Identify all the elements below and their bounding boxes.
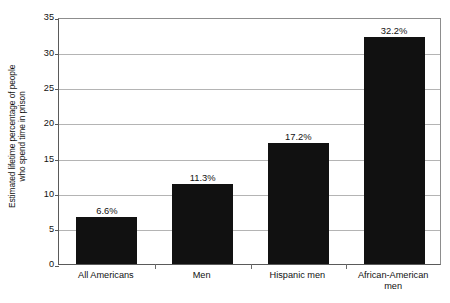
bar <box>268 143 329 264</box>
y-axis-tick-label: 30 <box>34 49 54 58</box>
bar-chart: Estimated lifetime percentage of people … <box>0 0 450 303</box>
y-axis-tick-mark <box>55 160 59 161</box>
bar <box>364 37 425 264</box>
y-axis-tick-mark <box>55 19 59 20</box>
x-axis-tick-label-line: All Americans <box>58 270 154 281</box>
x-axis-tick-mark <box>155 264 156 269</box>
y-axis-tick-label: 5 <box>34 225 54 234</box>
y-axis-tick-label: 35 <box>34 13 54 22</box>
x-axis-tick-mark <box>346 264 347 269</box>
y-axis-tick-mark <box>55 266 59 267</box>
x-axis-tick-label: All Americans <box>58 270 154 281</box>
x-axis-tick-label-line: African-American <box>345 270 441 281</box>
y-axis-tick-labels: 05101520253035 <box>33 0 54 303</box>
x-axis-tick-labels: All AmericansMenHispanic menAfrican-Amer… <box>58 270 441 303</box>
y-axis-tick-mark <box>55 89 59 90</box>
y-axis-tick-label: 15 <box>34 155 54 164</box>
x-axis-tick-label-line: Hispanic men <box>250 270 346 281</box>
y-axis-title: Estimated lifetime percentage of people … <box>0 0 36 272</box>
y-axis-tick-mark <box>55 124 59 125</box>
y-axis-tick-label: 10 <box>34 190 54 199</box>
y-axis-title-line-2: who spend time in prison <box>18 64 28 207</box>
x-axis-tick-label-line: Men <box>154 270 250 281</box>
x-axis-tick-mark <box>251 264 252 269</box>
y-axis-tick-mark <box>55 195 59 196</box>
y-axis-tick-label: 0 <box>34 260 54 269</box>
x-axis-tick-label: Men <box>154 270 250 281</box>
y-axis-tick-label: 25 <box>34 84 54 93</box>
bar-value-label: 32.2% <box>354 26 434 35</box>
y-axis-tick-mark <box>55 54 59 55</box>
y-axis-title-line-1: Estimated lifetime percentage of people <box>8 64 18 207</box>
x-axis-tick-label: Hispanic men <box>250 270 346 281</box>
bar-value-label: 11.3% <box>163 173 243 182</box>
bar-value-label: 6.6% <box>67 206 147 215</box>
bar-value-label: 17.2% <box>258 132 338 141</box>
bar <box>172 184 233 264</box>
x-axis-tick-label: African-Americanmen <box>345 270 441 292</box>
y-axis-tick-mark <box>55 230 59 231</box>
bar <box>76 217 137 264</box>
plot-area: 6.6%11.3%17.2%32.2% <box>58 18 441 265</box>
x-axis-tick-label-line: men <box>345 281 441 292</box>
y-axis-tick-label: 20 <box>34 119 54 128</box>
